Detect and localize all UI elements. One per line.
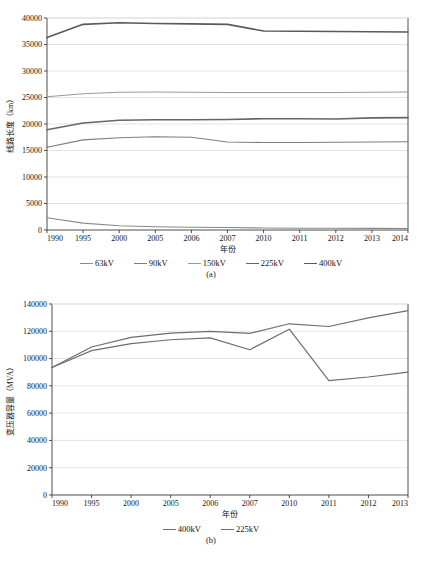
y-axis-title: 线路长度（km） — [5, 95, 15, 153]
series-line-150kV — [47, 92, 408, 97]
chart-b-legend: 400kV225kV — [0, 525, 422, 534]
y-tick-label: 30000 — [22, 67, 42, 76]
legend-item[interactable]: 400kV — [304, 259, 342, 268]
x-tick-label: 1995 — [84, 499, 100, 508]
x-tick-label: 2014 — [392, 234, 408, 243]
y-tick-label: 60000 — [27, 409, 47, 418]
legend-item[interactable]: 90kV — [134, 259, 168, 268]
legend-item-label: 225kV — [261, 259, 284, 268]
x-tick-label: 2013 — [364, 234, 380, 243]
x-tick-label: 2011 — [292, 234, 308, 243]
x-tick-label: 1990 — [52, 499, 68, 508]
series-line-225kV — [52, 329, 408, 380]
chart-a-legend: 63kV90kV150kV225kV400kV — [0, 259, 422, 268]
x-tick-label: 2005 — [147, 234, 163, 243]
x-tick-label: 2006 — [183, 234, 199, 243]
y-tick-label: 40000 — [22, 14, 42, 23]
panel-b-caption: (b) — [0, 536, 422, 545]
legend-line-icon — [163, 529, 176, 530]
x-tick-label: 2012 — [328, 234, 344, 243]
x-tick-label: 1995 — [75, 234, 91, 243]
legend-line-icon — [246, 263, 259, 264]
chart-panel-b: 0200004000060000800001000001200001400001… — [0, 292, 422, 562]
chart-a-plot-area: 0500010000150002000025000300003500040000… — [0, 0, 422, 258]
y-tick-label: 15000 — [22, 146, 42, 155]
x-tick-label: 2012 — [360, 499, 376, 508]
x-tick-label: 2010 — [256, 234, 272, 243]
legend-item[interactable]: 225kV — [221, 525, 259, 534]
y-tick-label: 20000 — [27, 464, 47, 473]
x-axis-title: 年份 — [222, 509, 238, 519]
chart-panel-a: 0500010000150002000025000300003500040000… — [0, 0, 422, 292]
y-tick-label: 5000 — [26, 199, 42, 208]
y-tick-label: 0 — [43, 491, 47, 500]
y-tick-label: 80000 — [27, 382, 47, 391]
x-tick-label: 2007 — [220, 234, 236, 243]
legend-item-label: 150kV — [203, 259, 226, 268]
legend-item-label: 225kV — [236, 525, 259, 534]
y-tick-label: 140000 — [23, 300, 47, 309]
legend-item[interactable]: 225kV — [246, 259, 284, 268]
legend-item-label: 63kV — [95, 259, 114, 268]
legend-item[interactable]: 150kV — [188, 259, 226, 268]
x-tick-label: 2005 — [163, 499, 179, 508]
legend-item-label: 400kV — [319, 259, 342, 268]
y-tick-label: 35000 — [22, 40, 42, 49]
line-chart-b: 0200004000060000800001000001200001400001… — [0, 292, 422, 524]
legend-line-icon — [134, 263, 147, 264]
y-tick-label: 25000 — [22, 93, 42, 102]
x-tick-label: 2011 — [321, 499, 337, 508]
y-tick-label: 20000 — [22, 120, 42, 129]
y-tick-label: 100000 — [23, 354, 47, 363]
series-line-63kV — [47, 218, 408, 229]
legend-line-icon — [80, 263, 93, 264]
legend-line-icon — [304, 263, 317, 264]
series-line-90kV — [47, 137, 408, 148]
y-tick-label: 40000 — [27, 436, 47, 445]
x-tick-label: 1990 — [47, 234, 63, 243]
y-axis-title: 变压器容量（MVA） — [5, 363, 15, 437]
legend-item[interactable]: 63kV — [80, 259, 114, 268]
line-chart-a: 0500010000150002000025000300003500040000… — [0, 0, 422, 258]
legend-item-label: 400kV — [178, 525, 201, 534]
x-tick-label: 2013 — [392, 499, 408, 508]
x-tick-label: 2000 — [123, 499, 139, 508]
legend-item[interactable]: 400kV — [163, 525, 201, 534]
legend-line-icon — [221, 529, 234, 530]
chart-b-plot-area: 0200004000060000800001000001200001400001… — [0, 292, 422, 524]
series-line-400kV — [47, 23, 408, 38]
legend-item-label: 90kV — [149, 259, 168, 268]
legend-line-icon — [188, 263, 201, 264]
figure-page: 0500010000150002000025000300003500040000… — [0, 0, 422, 562]
x-tick-label: 2006 — [202, 499, 218, 508]
x-axis-title: 年份 — [220, 244, 236, 254]
y-tick-label: 0 — [38, 226, 42, 235]
x-tick-label: 2000 — [111, 234, 127, 243]
y-tick-label: 120000 — [23, 327, 47, 336]
y-tick-label: 10000 — [22, 173, 42, 182]
panel-a-caption: (a) — [0, 270, 422, 279]
x-tick-label: 2010 — [281, 499, 297, 508]
x-tick-label: 2007 — [242, 499, 258, 508]
